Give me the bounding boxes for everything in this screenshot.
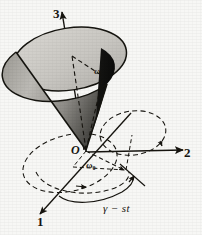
omega-label: ω [94, 67, 101, 76]
origin-label: O [71, 144, 80, 156]
omega-zero-subscript: 0 [93, 165, 96, 171]
origin-point [85, 150, 87, 152]
omega-zero-label: ω0 [86, 161, 96, 170]
physics-figure: 3 2 1 O ω ω0 γ − st [0, 0, 202, 235]
figure-canvas [0, 0, 202, 235]
omega-zero-symbol: ω [86, 160, 93, 170]
axis-1-label: 1 [37, 215, 44, 228]
angle-expression-label: γ − st [103, 203, 130, 214]
axis-3-label: 3 [53, 7, 60, 20]
axis-2-label: 2 [184, 146, 191, 159]
